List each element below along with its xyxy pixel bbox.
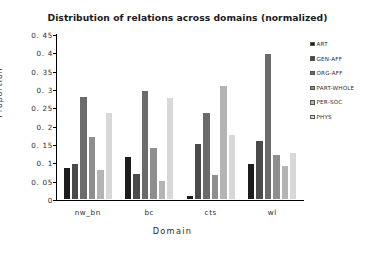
bar[interactable] [264,53,272,200]
y-axis-tick-mark [53,200,56,201]
legend-label: PER-SOC [317,99,343,105]
y-axis-tick-mark [53,53,56,54]
chart-container: Distribution of relations across domains… [0,0,375,260]
x-axis-tick-label: bc [119,208,181,217]
x-axis-title: Domain [0,226,345,236]
legend-item[interactable]: PART-WHOLE [310,84,374,92]
legend-item[interactable]: PHYS [310,113,374,121]
y-axis-tick-label: 0. 4 [23,49,53,58]
legend-item[interactable]: ORG-AFF [310,69,374,77]
bar[interactable] [79,96,87,201]
y-axis-tick-mark [53,72,56,73]
y-axis-title: Proportion [0,67,4,117]
legend-label: ART [317,41,328,47]
legend-swatch-icon [310,115,315,120]
bar[interactable] [186,195,194,201]
y-axis-tick-mark [53,35,56,36]
y-axis-tick-mark [53,145,56,146]
bar-group [119,35,181,200]
bar[interactable] [149,147,157,200]
y-axis-tick-label: 0. 25 [23,104,53,113]
x-axis-line [56,200,304,201]
bar[interactable] [124,156,132,200]
chart-title: Distribution of relations across domains… [0,12,375,23]
chart-legend: ARTGEN-AFFORG-AFFPART-WHOLEPER-SOCPHYS [310,40,374,128]
legend-label: ORG-AFF [317,70,343,76]
legend-swatch-icon [310,71,315,76]
legend-swatch-icon [310,42,315,47]
bar[interactable] [88,136,96,200]
bar[interactable] [289,152,297,200]
legend-item[interactable]: PER-SOC [310,98,374,106]
bar[interactable] [272,154,280,200]
legend-label: PART-WHOLE [317,85,355,91]
bar[interactable] [228,134,236,200]
y-axis-tick-mark [53,163,56,164]
bar[interactable] [194,143,202,200]
y-axis-tick-label: 0. 3 [23,86,53,95]
bar[interactable] [211,174,219,200]
y-axis-tick-label: 0. 35 [23,67,53,76]
plot-area [57,35,303,200]
bar[interactable] [63,167,71,200]
bar[interactable] [132,173,140,201]
y-axis-tick-label: 0. 05 [23,177,53,186]
y-axis-tick-labels: 00. 050. 10. 150. 20. 250. 30. 350. 40. … [20,35,53,200]
y-axis-tick-mark [53,182,56,183]
y-axis-tick-label: 0. 2 [23,122,53,131]
legend-item[interactable]: ART [310,40,374,48]
legend-item[interactable]: GEN-AFF [310,55,374,63]
y-axis-tick-mark [53,127,56,128]
x-axis-tick-label: wl [242,208,304,217]
y-axis-tick-mark [53,108,56,109]
y-axis-tick-label: 0 [23,196,53,205]
bar-group [57,35,119,200]
y-axis-tick-label: 0. 1 [23,159,53,168]
bar[interactable] [96,169,104,200]
bar[interactable] [158,180,166,200]
legend-swatch-icon [310,86,315,91]
legend-label: PHYS [317,114,332,120]
x-axis-tick-label: nw_bn [57,208,119,217]
bar[interactable] [281,165,289,200]
legend-swatch-icon [310,56,315,61]
y-axis-tick-mark [53,90,56,91]
bar-group [242,35,304,200]
y-axis-tick-label: 0. 15 [23,141,53,150]
bar[interactable] [71,163,79,200]
bar[interactable] [141,90,149,200]
legend-swatch-icon [310,100,315,105]
bar[interactable] [105,112,113,200]
bar[interactable] [247,163,255,200]
bar[interactable] [202,112,210,200]
bar-group [180,35,242,200]
x-axis-tick-label: cts [180,208,242,217]
legend-label: GEN-AFF [317,56,343,62]
y-axis-tick-label: 0. 45 [23,31,53,40]
bar[interactable] [219,85,227,201]
bar[interactable] [255,140,263,201]
bar[interactable] [166,97,174,200]
